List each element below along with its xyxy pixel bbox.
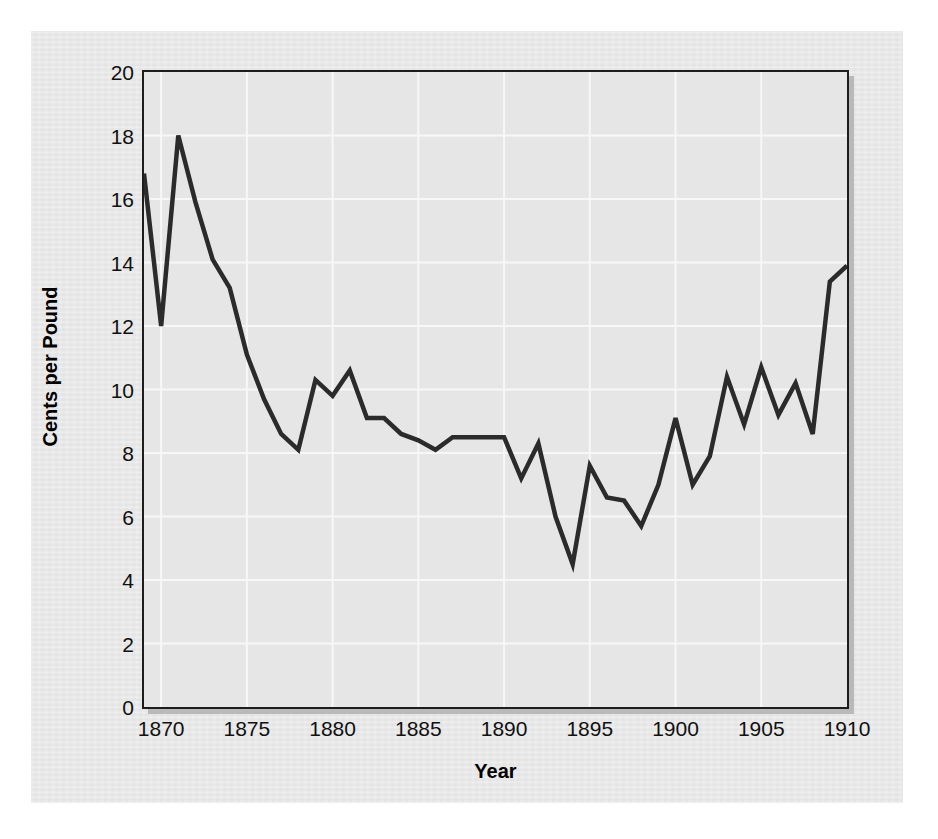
y-axis-tick-labels: 02468101214161820 <box>78 0 134 839</box>
x-axis-tick-labels: 187018751880188518901895190019051910 <box>0 718 938 750</box>
y-tick-label: 4 <box>86 570 134 591</box>
x-tick-label: 1895 <box>545 718 635 739</box>
y-axis-title: Cents per Pound <box>39 257 62 477</box>
x-axis-title: Year <box>142 760 849 783</box>
y-tick-label: 18 <box>86 125 134 146</box>
y-tick-label: 8 <box>86 443 134 464</box>
y-tick-label: 0 <box>86 697 134 718</box>
line-chart-svg <box>144 72 847 707</box>
x-tick-label: 1905 <box>716 718 806 739</box>
x-tick-label: 1885 <box>373 718 463 739</box>
y-gridlines <box>144 136 847 644</box>
x-tick-label: 1880 <box>288 718 378 739</box>
x-tick-label: 1900 <box>631 718 721 739</box>
x-tick-label: 1870 <box>116 718 206 739</box>
x-tick-label: 1910 <box>802 718 892 739</box>
y-tick-label: 6 <box>86 506 134 527</box>
y-tick-label: 2 <box>86 633 134 654</box>
x-tick-label: 1875 <box>202 718 292 739</box>
plot-area <box>142 70 849 709</box>
x-tick-label: 1890 <box>459 718 549 739</box>
chart-page: 02468101214161820 1870187518801885189018… <box>0 0 938 839</box>
y-tick-label: 14 <box>86 252 134 273</box>
y-tick-label: 20 <box>86 62 134 83</box>
y-tick-label: 10 <box>86 379 134 400</box>
y-tick-label: 16 <box>86 189 134 210</box>
y-tick-label: 12 <box>86 316 134 337</box>
